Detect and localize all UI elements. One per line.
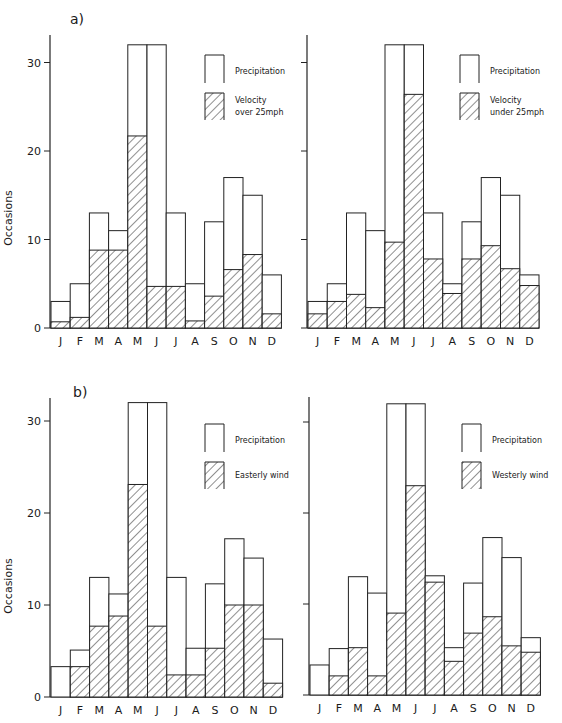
legend: PrecipitationVelocityunder 25mph <box>460 55 544 120</box>
x-tick-label: F <box>334 335 340 348</box>
y-tick-label: 20 <box>27 145 41 158</box>
legend-label: Precipitation <box>235 436 285 445</box>
legend-label: Precipitation <box>235 67 285 76</box>
bar-hatched <box>128 136 147 328</box>
x-tick-label: O <box>487 335 496 348</box>
figure-caption-cutoff <box>4 715 558 723</box>
x-tick-label: D <box>527 702 535 715</box>
bar-hatched <box>501 269 520 328</box>
bar-hatched <box>166 286 185 328</box>
bar-hatched <box>483 617 502 695</box>
y-tick-label: 30 <box>27 415 41 428</box>
legend-label: Easterly wind <box>235 471 289 480</box>
x-tick-label: M <box>94 335 104 348</box>
x-tick-label: M <box>390 335 400 348</box>
bar-hatched <box>128 484 147 697</box>
bar-hatched <box>205 296 224 328</box>
bar-precipitation <box>147 45 166 328</box>
x-tick-label: F <box>77 335 83 348</box>
x-tick-label: J <box>432 702 436 715</box>
y-axis-label: Occasions <box>2 558 15 614</box>
legend-label: Velocity <box>490 96 522 105</box>
bar-hatched <box>424 259 443 328</box>
legend-label: Westerly wind <box>492 471 548 480</box>
bar-hatched <box>148 626 167 697</box>
x-tick-label: N <box>506 335 514 348</box>
x-tick-label: O <box>229 335 238 348</box>
legend-swatch-open <box>205 424 224 452</box>
bar-hatched <box>263 683 282 697</box>
legend-label: over 25mph <box>235 108 284 117</box>
bar-hatched <box>481 246 500 328</box>
legend-swatch-open <box>460 55 479 83</box>
x-tick-label: A <box>373 702 381 715</box>
x-tick-label: D <box>268 335 276 348</box>
x-tick-label: J <box>154 335 158 348</box>
x-tick-label: J <box>411 335 415 348</box>
bar-hatched <box>224 270 243 328</box>
bar-hatched <box>147 286 166 328</box>
bar-precipitation <box>51 667 70 697</box>
bar-hatched <box>502 646 521 695</box>
chart-b-left: 0102030OccasionsJFMAMJJASONDPrecipitatio… <box>2 398 289 717</box>
bar-hatched <box>521 652 540 695</box>
bar-hatched <box>167 675 186 697</box>
bar-hatched <box>51 322 70 328</box>
x-tick-label: J <box>431 335 435 348</box>
x-tick-label: M <box>351 335 361 348</box>
bar-hatched <box>185 321 204 328</box>
legend-swatch-hatched <box>205 93 224 120</box>
chart-a-right: JFMAMJJASONDPrecipitationVelocityunder 2… <box>301 35 544 348</box>
x-tick-label: A <box>450 702 458 715</box>
x-tick-label: M <box>392 702 402 715</box>
legend-swatch-hatched <box>462 462 481 489</box>
chart-b-right: JFMAMJJASONDPrecipitationWesterly wind <box>303 397 548 715</box>
bar-hatched <box>406 486 425 695</box>
x-tick-label: M <box>133 335 143 348</box>
y-tick-label: 10 <box>27 234 41 247</box>
bar-hatched <box>368 676 387 695</box>
legend-label: Precipitation <box>492 436 542 445</box>
bar-hatched <box>404 94 423 328</box>
legend-swatch-open <box>462 424 481 452</box>
x-tick-label: S <box>211 335 218 348</box>
bar-hatched <box>243 255 262 328</box>
bar-hatched <box>462 259 481 328</box>
x-tick-label: A <box>191 335 199 348</box>
y-tick-label: 0 <box>34 691 41 704</box>
y-tick-label: 10 <box>27 599 41 612</box>
x-tick-label: S <box>468 335 475 348</box>
bar-hatched <box>464 633 483 695</box>
y-axis-label: Occasions <box>2 190 15 246</box>
x-tick-label: D <box>525 335 533 348</box>
legend-label: Velocity <box>235 96 267 105</box>
bar-hatched <box>308 314 327 328</box>
legend-swatch-hatched <box>460 93 479 120</box>
x-tick-label: J <box>58 335 62 348</box>
x-tick-label: O <box>488 702 497 715</box>
x-tick-label: A <box>372 335 380 348</box>
x-tick-label: F <box>336 702 342 715</box>
bar-hatched <box>70 667 89 697</box>
bar-hatched <box>520 286 539 328</box>
bar-hatched <box>109 250 128 328</box>
bar-hatched <box>425 582 444 695</box>
bar-hatched <box>385 242 404 328</box>
legend-swatch-open <box>205 55 224 83</box>
bar-hatched <box>90 626 109 697</box>
y-tick-label: 30 <box>27 57 41 70</box>
legend: PrecipitationWesterly wind <box>462 424 548 489</box>
chart-a-left: 0102030OccasionsJFMAMJJASONDPrecipitatio… <box>2 35 285 348</box>
x-tick-label: A <box>449 335 457 348</box>
bar-hatched <box>262 314 281 328</box>
x-tick-label: M <box>353 702 363 715</box>
figure: a) b) 0102030OccasionsJFMAMJJASONDPrecip… <box>0 0 562 723</box>
x-tick-label: J <box>317 702 321 715</box>
bar-hatched <box>70 317 89 328</box>
bar-hatched <box>244 605 263 697</box>
legend: PrecipitationVelocityover 25mph <box>205 55 285 120</box>
legend-swatch-hatched <box>205 462 224 489</box>
bar-hatched <box>109 616 128 697</box>
panel-a-label: a) <box>70 11 84 27</box>
bar-hatched <box>89 250 108 328</box>
